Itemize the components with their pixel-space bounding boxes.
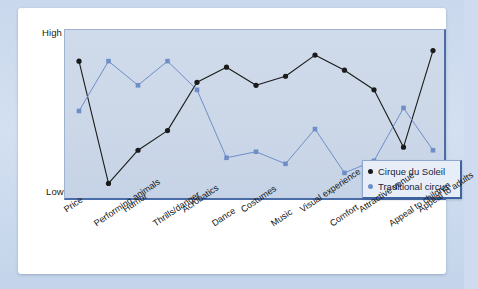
x-axis-tick-label: Dance [210, 205, 237, 228]
legend-marker-icon [368, 184, 373, 189]
data-point[interactable] [283, 162, 288, 167]
x-axis-labels: PricePerforming animalsHumorThrills/dang… [18, 204, 478, 289]
data-point[interactable] [254, 149, 259, 154]
data-point[interactable] [224, 155, 229, 160]
data-point[interactable] [431, 148, 436, 153]
data-point[interactable] [194, 80, 199, 85]
data-point[interactable] [283, 74, 288, 79]
data-point[interactable] [77, 109, 82, 114]
data-point[interactable] [136, 83, 141, 88]
data-point[interactable] [371, 87, 376, 92]
data-point[interactable] [195, 88, 200, 93]
data-point[interactable] [342, 68, 347, 73]
data-point[interactable] [135, 148, 140, 153]
data-point[interactable] [253, 83, 258, 88]
data-point[interactable] [313, 127, 318, 132]
data-point[interactable] [401, 106, 406, 111]
legend-marker-icon [368, 169, 373, 174]
data-point[interactable] [401, 145, 406, 150]
y-axis-low-label: Low [46, 186, 64, 197]
data-point[interactable] [76, 59, 81, 64]
data-point[interactable] [165, 128, 170, 133]
data-point[interactable] [165, 59, 170, 64]
y-axis-high-label: High [42, 27, 62, 38]
data-point[interactable] [224, 65, 229, 70]
data-point[interactable] [430, 48, 435, 53]
x-axis-tick-label: Music [269, 207, 294, 228]
data-point[interactable] [106, 181, 111, 186]
x-axis-tick-label: Comfort [328, 202, 360, 228]
data-point[interactable] [106, 59, 111, 64]
data-point[interactable] [312, 53, 317, 58]
series-traditional-circus [77, 59, 436, 175]
chart-card: High Low Cirque du Soleil Traditional ci… [18, 8, 446, 274]
